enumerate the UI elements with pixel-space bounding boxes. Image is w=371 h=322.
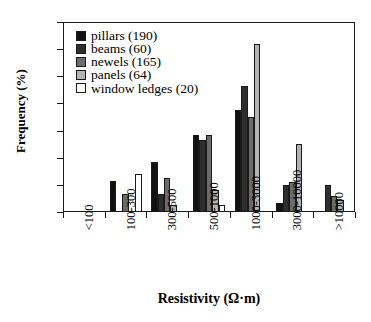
legend-swatch-icon xyxy=(76,31,86,41)
x-tick-mark xyxy=(355,212,356,218)
x-tick-label: 3000-10000 xyxy=(291,170,304,230)
bar xyxy=(110,181,116,212)
x-tick-label: 300-500 xyxy=(166,189,179,231)
legend-swatch-icon xyxy=(76,70,86,80)
x-tick-label: 500-1000 xyxy=(208,182,221,230)
x-axis-title: Resistivity (Ω·m) xyxy=(63,291,355,307)
legend-swatch-icon xyxy=(76,57,86,67)
legend-label: window ledges (20) xyxy=(91,82,198,96)
x-tick-label: <100 xyxy=(83,204,96,230)
chart-figure: Frequency (%) 010203040506070 <100100-30… xyxy=(0,0,371,322)
legend-swatch-icon xyxy=(76,44,86,54)
x-tick-label: 100-300 xyxy=(124,189,137,231)
legend-label: panels (64) xyxy=(91,68,151,82)
x-tick-mark xyxy=(272,212,273,218)
x-tick-mark xyxy=(188,212,189,218)
x-tick-label: 1000-3000 xyxy=(249,176,262,230)
x-tick-mark xyxy=(313,212,314,218)
x-tick-mark xyxy=(105,212,106,218)
legend: pillars (190)beams (60)newels (165)panel… xyxy=(76,29,198,95)
y-axis-title: Frequency (%) xyxy=(13,41,29,181)
legend-item: panels (64) xyxy=(76,69,198,82)
x-tick-mark xyxy=(63,212,64,218)
x-tick-label: >10000 xyxy=(333,192,346,230)
legend-item: window ledges (20) xyxy=(76,82,198,95)
x-tick-mark xyxy=(146,212,147,218)
legend-swatch-icon xyxy=(76,83,86,93)
x-tick-mark xyxy=(230,212,231,218)
